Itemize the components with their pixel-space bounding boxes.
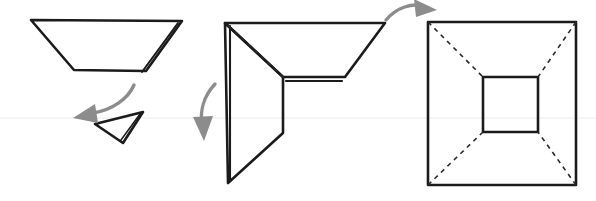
fold-flat-arrow bbox=[386, 0, 437, 20]
step-2-group bbox=[225, 23, 385, 183]
dashed-crease-diagonal bbox=[228, 25, 283, 77]
detached-triangle bbox=[95, 112, 143, 143]
lower-flap bbox=[225, 23, 283, 183]
doubled-right-edge-icon bbox=[142, 23, 178, 72]
arrow-shaft bbox=[93, 85, 134, 113]
arrow-head-icon bbox=[193, 116, 213, 141]
fold-down-arrow bbox=[193, 84, 215, 141]
arrow-head-icon bbox=[414, 0, 437, 17]
outer-square bbox=[428, 22, 576, 185]
diagram-canvas: Paper folding step diagram bbox=[0, 0, 596, 201]
dashed-crease-top-left bbox=[428, 22, 483, 77]
step-3-group bbox=[428, 22, 576, 185]
arrow-head-icon bbox=[73, 104, 98, 123]
dashed-crease-bottom-right bbox=[538, 132, 576, 185]
dashed-crease-bottom-left bbox=[428, 132, 483, 185]
inner-square bbox=[483, 77, 538, 132]
trapezoid bbox=[31, 20, 182, 71]
step-1-group bbox=[31, 20, 182, 143]
upper-trapezoid-flap bbox=[225, 23, 385, 77]
dashed-crease-top-right bbox=[538, 22, 576, 77]
paper-folding-diagram bbox=[0, 0, 596, 201]
